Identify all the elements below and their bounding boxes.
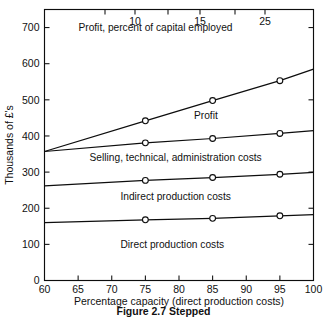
- y-tick-label: 200: [22, 202, 40, 214]
- y-tick-label: 100: [22, 238, 40, 250]
- series-line-0: [45, 215, 314, 223]
- data-point-marker: [210, 98, 216, 104]
- data-point-marker: [277, 171, 283, 177]
- x-tick-label: 70: [106, 283, 118, 295]
- data-point-marker: [277, 131, 283, 137]
- y-tick-label: 300: [22, 166, 40, 178]
- x-tick-label: 95: [274, 283, 286, 295]
- data-point-marker: [142, 140, 148, 146]
- y-tick-label: 400: [22, 130, 40, 142]
- chart-plot-area: 6065707580859095100010020030040050060070…: [3, 10, 322, 308]
- band-label-1: Profit: [194, 110, 218, 121]
- data-point-marker: [210, 175, 216, 181]
- y-tick-label: 600: [22, 57, 40, 69]
- band-label-0: Profit, percent of capital employed: [78, 22, 232, 33]
- data-point-marker: [277, 213, 283, 219]
- figure-caption: Figure 2.7 Stepped: [0, 303, 327, 317]
- x-tick-label: 80: [173, 283, 185, 295]
- x-tick-label: 85: [207, 283, 219, 295]
- x-tick-label: 65: [72, 283, 84, 295]
- series-line-3: [45, 69, 314, 151]
- x-tick-label: 90: [240, 283, 252, 295]
- data-point-marker: [210, 215, 216, 221]
- data-point-marker: [142, 118, 148, 124]
- x-tick-label: 75: [140, 283, 152, 295]
- x-tick-label: 60: [39, 283, 51, 295]
- series-line-2: [45, 131, 314, 152]
- chart-canvas: 6065707580859095100010020030040050060070…: [0, 0, 327, 317]
- top-axis-tick-label: 25: [259, 15, 271, 27]
- data-point-marker: [142, 217, 148, 223]
- y-axis-title: Thousands of £'s: [3, 105, 15, 185]
- figure-container: 6065707580859095100010020030040050060070…: [0, 0, 327, 317]
- series-line-1: [45, 172, 314, 185]
- band-label-3: Indirect production costs: [120, 191, 230, 202]
- data-point-marker: [210, 136, 216, 142]
- y-tick-label: 500: [22, 94, 40, 106]
- x-tick-label: 100: [305, 283, 323, 295]
- data-point-marker: [142, 178, 148, 184]
- band-label-4: Direct production costs: [120, 239, 224, 250]
- y-tick-label: 0: [34, 274, 40, 286]
- band-label-2: Selling, technical, administration costs: [90, 152, 262, 163]
- data-point-marker: [277, 78, 283, 84]
- y-tick-label: 700: [22, 21, 40, 33]
